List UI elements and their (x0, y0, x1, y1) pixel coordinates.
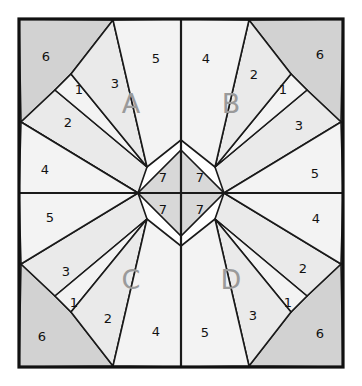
quadrant-b (181, 19, 343, 193)
quadrant-d (181, 193, 343, 367)
dissection-figure: 1 2 3 4 5 6 A 1 2 3 4 5 6 B (0, 0, 362, 386)
dissection-diagram: 1 2 3 4 5 6 A 1 2 3 4 5 6 B (0, 0, 362, 386)
quadrant-a: 1 2 3 4 5 6 A (19, 19, 181, 193)
quadrant-c (19, 193, 181, 367)
